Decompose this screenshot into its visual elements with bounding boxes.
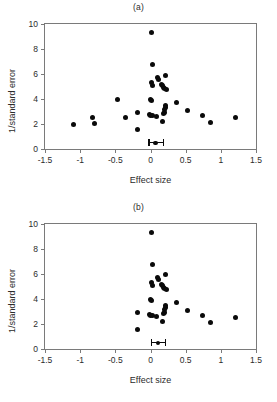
x-tick-label: -1 <box>76 155 84 165</box>
data-point <box>150 62 155 67</box>
summary-effect-errorbar <box>148 139 163 146</box>
errorbar-cap-right <box>163 139 164 146</box>
data-point <box>149 230 154 235</box>
y-tick-label: 0 <box>33 344 38 354</box>
y-tick <box>41 274 45 275</box>
summary-effect-errorbar <box>151 339 166 346</box>
y-tick-label: 10 <box>29 19 38 29</box>
panel-a-plot-frame: 0246810-1.5-1-0.500.511.5 <box>44 23 257 150</box>
data-point <box>208 120 213 125</box>
y-tick <box>41 224 45 225</box>
data-point <box>162 310 167 315</box>
data-point <box>163 73 168 78</box>
y-tick-label: 2 <box>33 319 38 329</box>
panel-a-y-axis-title: 1/standard error <box>7 37 17 164</box>
y-tick-label: 6 <box>33 69 38 79</box>
data-point <box>156 277 161 282</box>
y-tick <box>41 324 45 325</box>
y-tick-label: 8 <box>33 244 38 254</box>
x-tick <box>256 349 257 353</box>
y-tick-label: 8 <box>33 44 38 54</box>
panel-b-plot-frame: 0246810-1.5-1-0.500.511.5 <box>44 223 257 350</box>
data-point <box>149 30 154 35</box>
panel-b-plot-area: 0246810-1.5-1-0.500.511.5 <box>45 224 256 349</box>
y-tick <box>41 99 45 100</box>
x-tick <box>186 149 187 153</box>
data-point <box>123 115 128 120</box>
errorbar-cap-left <box>151 339 152 346</box>
data-point <box>174 100 179 105</box>
x-tick <box>115 149 116 153</box>
data-point <box>174 300 179 305</box>
data-point <box>135 327 140 332</box>
data-point <box>163 272 168 277</box>
summary-effect-marker <box>153 141 157 145</box>
data-point <box>200 113 205 118</box>
y-tick <box>41 74 45 75</box>
panel-b: (b) 1/standard error Effect size 0246810… <box>0 200 277 401</box>
x-tick <box>151 149 152 153</box>
data-point <box>156 77 161 82</box>
y-tick-label: 6 <box>33 269 38 279</box>
funnel-plot-figure: (a) 1/standard error Effect size 0246810… <box>0 0 277 402</box>
x-tick <box>115 349 116 353</box>
summary-effect-marker <box>156 341 160 345</box>
data-point <box>208 320 213 325</box>
x-tick <box>45 349 46 353</box>
x-tick-label: -1.5 <box>38 155 53 165</box>
data-point <box>200 313 205 318</box>
x-tick-label: 1.5 <box>250 155 262 165</box>
y-tick-label: 2 <box>33 119 38 129</box>
x-tick-label: 0.5 <box>180 155 192 165</box>
panel-b-y-axis-title: 1/standard error <box>7 237 17 364</box>
data-point <box>154 114 159 119</box>
x-tick <box>45 149 46 153</box>
x-tick <box>186 349 187 353</box>
panel-a: (a) 1/standard error Effect size 0246810… <box>0 0 277 201</box>
data-point <box>160 319 165 324</box>
data-point <box>164 287 169 292</box>
data-point <box>164 87 169 92</box>
y-tick <box>41 49 45 50</box>
x-tick <box>256 149 257 153</box>
x-tick-label: -1.5 <box>38 355 53 365</box>
data-point <box>149 298 154 303</box>
data-point <box>154 314 159 319</box>
errorbar-cap-right <box>165 339 166 346</box>
x-tick <box>80 349 81 353</box>
data-point <box>150 83 155 88</box>
x-tick-label: -0.5 <box>108 355 123 365</box>
x-tick <box>151 349 152 353</box>
y-tick <box>41 299 45 300</box>
data-point <box>185 308 190 313</box>
data-point <box>150 262 155 267</box>
y-tick-label: 0 <box>33 144 38 154</box>
x-tick-label: 1.5 <box>250 355 262 365</box>
panel-a-label: (a) <box>0 2 277 12</box>
data-point <box>135 127 140 132</box>
y-tick-label: 10 <box>29 219 38 229</box>
data-point <box>185 108 190 113</box>
x-tick-label: -1 <box>76 355 84 365</box>
x-tick-label: 1 <box>218 155 223 165</box>
x-tick <box>80 149 81 153</box>
panel-b-label: (b) <box>0 202 277 212</box>
data-point <box>233 315 238 320</box>
data-point <box>92 121 97 126</box>
panel-b-x-axis-title: Effect size <box>44 375 257 385</box>
y-tick-label: 4 <box>33 94 38 104</box>
data-point <box>149 98 154 103</box>
data-point <box>115 97 120 102</box>
y-tick-label: 4 <box>33 294 38 304</box>
panel-a-plot-area: 0246810-1.5-1-0.500.511.5 <box>45 24 256 149</box>
data-point <box>135 310 140 315</box>
data-point <box>135 110 140 115</box>
data-point <box>233 115 238 120</box>
y-tick <box>41 124 45 125</box>
data-point <box>162 110 167 115</box>
x-tick-label: 0 <box>148 355 153 365</box>
x-tick <box>221 349 222 353</box>
errorbar-cap-left <box>148 139 149 146</box>
data-point <box>90 115 95 120</box>
x-tick-label: 0 <box>148 155 153 165</box>
